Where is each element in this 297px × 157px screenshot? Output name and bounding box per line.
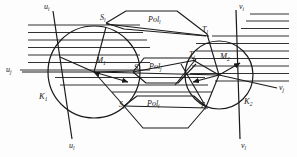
label-pol-l: Poll (148, 16, 161, 25)
label-v-l: vl (241, 142, 246, 151)
label-s-l: Sl (100, 14, 106, 23)
label-k2: K2 (244, 97, 252, 107)
label-u-i: ui (44, 3, 50, 12)
label-u-l: ul (69, 142, 75, 151)
label-s-i: Si (119, 101, 125, 110)
label-m2: M2 (220, 52, 230, 62)
spokes-m1 (60, 27, 134, 106)
label-pol-j: Polj (149, 63, 162, 72)
geometry-figure: ui uj ul vi vj vl Sl Sj Si Tl Tj Ti M1 M… (0, 0, 297, 157)
label-u-j: uj (6, 66, 12, 75)
label-s-j: Sj (134, 64, 140, 73)
label-m1: M1 (96, 56, 106, 66)
label-k1: K1 (39, 92, 47, 102)
ray-vi-vl (236, 10, 240, 139)
label-t-j: Tj (189, 51, 195, 60)
label-t-i: Ti (200, 102, 206, 111)
label-v-j: vj (279, 84, 284, 93)
ray-ui-ul (53, 11, 72, 139)
label-t-l: Tl (202, 26, 208, 35)
label-pol-i: Poli (147, 100, 160, 109)
polygon-pol-i (124, 96, 206, 128)
label-v-i: vi (239, 3, 244, 12)
